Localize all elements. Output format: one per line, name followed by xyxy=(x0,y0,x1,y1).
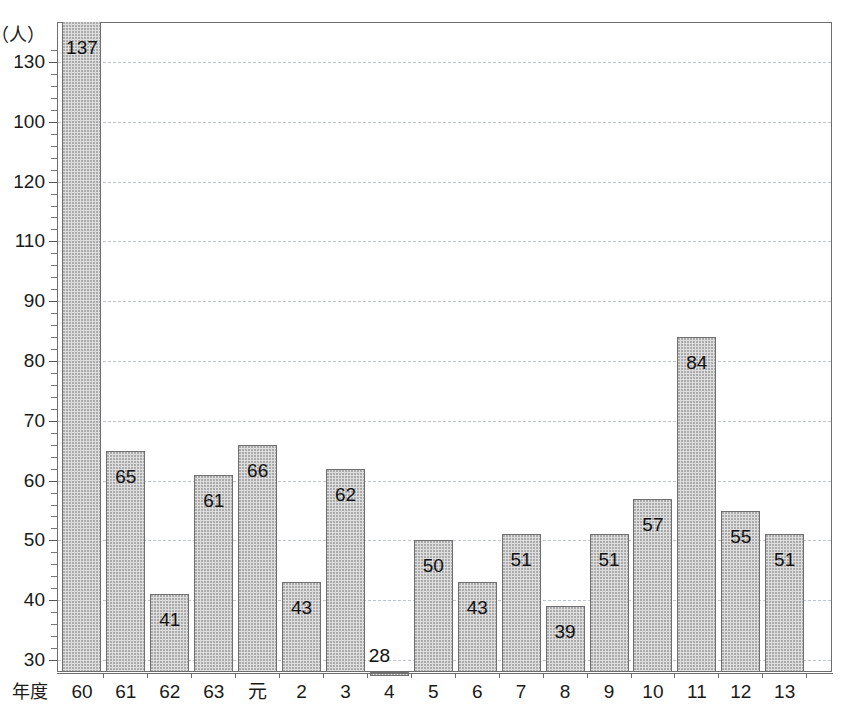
x-tick-label: 62 xyxy=(150,681,189,703)
y-minor-tick-mark xyxy=(51,325,57,326)
bar-value-label: 39 xyxy=(546,622,585,641)
y-tick-label: 30 xyxy=(24,650,45,669)
y-tick-mark xyxy=(49,122,57,123)
y-minor-tick-mark xyxy=(51,217,57,218)
y-tick-label: 50 xyxy=(24,530,45,549)
x-tick-mark xyxy=(323,673,324,678)
y-minor-tick-mark xyxy=(51,86,57,87)
bar[interactable] xyxy=(62,22,101,672)
x-axis-rule xyxy=(57,673,833,674)
y-tick-label: 70 xyxy=(24,411,45,430)
bar-value-label: 51 xyxy=(590,550,629,569)
x-axis-title: 年度 xyxy=(4,681,56,703)
y-tick-label: 40 xyxy=(24,590,45,609)
y-tick-label: 110 xyxy=(15,231,45,250)
x-tick-mark xyxy=(411,673,412,678)
x-tick-label: 10 xyxy=(633,681,672,703)
bar-value-label: 43 xyxy=(458,598,497,617)
x-tick-mark xyxy=(499,673,500,678)
y-tick-mark xyxy=(49,660,57,661)
y-minor-tick-mark xyxy=(51,110,57,111)
y-axis-unit-label: （人） xyxy=(0,26,45,44)
y-minor-tick-mark xyxy=(51,253,57,254)
y-minor-tick-mark xyxy=(51,277,57,278)
y-tick-label: 120 xyxy=(13,172,45,191)
x-tick-label: 8 xyxy=(546,681,585,703)
gridline xyxy=(58,241,831,242)
bar[interactable] xyxy=(677,337,716,672)
x-tick-mark xyxy=(543,673,544,678)
y-minor-tick-mark xyxy=(51,505,57,506)
bar-value-label: 61 xyxy=(194,491,233,510)
bar-value-label: 84 xyxy=(677,353,716,372)
y-minor-tick-mark xyxy=(51,469,57,470)
y-minor-tick-mark xyxy=(51,206,57,207)
bar-value-label: 41 xyxy=(150,610,189,629)
x-tick-label: 3 xyxy=(326,681,365,703)
y-tick-label: 90 xyxy=(24,291,45,310)
x-tick-mark xyxy=(235,673,236,678)
x-tick-mark xyxy=(718,673,719,678)
bar[interactable] xyxy=(282,582,321,672)
x-tick-label: 6 xyxy=(458,681,497,703)
y-minor-tick-mark xyxy=(51,313,57,314)
x-tick-label: 元 xyxy=(238,681,277,703)
gridline xyxy=(58,122,831,123)
y-minor-tick-mark xyxy=(51,289,57,290)
y-tick-mark xyxy=(49,361,57,362)
bar-value-label: 55 xyxy=(721,527,760,546)
y-minor-tick-mark xyxy=(51,229,57,230)
x-tick-label: 7 xyxy=(502,681,541,703)
bar-chart: （人） 13010012011090807060504030 137654161… xyxy=(0,0,850,710)
bar-value-label: 137 xyxy=(62,38,101,57)
x-tick-label: 4 xyxy=(370,681,409,703)
y-minor-tick-mark xyxy=(51,648,57,649)
y-minor-tick-mark xyxy=(51,576,57,577)
y-minor-tick-mark xyxy=(51,493,57,494)
y-minor-tick-mark xyxy=(51,337,57,338)
y-minor-tick-mark xyxy=(51,516,57,517)
bar-value-label: 51 xyxy=(502,550,541,569)
bar-value-label: 65 xyxy=(106,467,145,486)
x-tick-mark xyxy=(147,673,148,678)
x-axis: 年度 60616263元2345678910111213 xyxy=(0,673,850,710)
x-tick-label: 11 xyxy=(677,681,716,703)
y-minor-tick-mark xyxy=(51,528,57,529)
y-minor-tick-mark xyxy=(51,397,57,398)
y-minor-tick-mark xyxy=(51,636,57,637)
bar-value-label: 43 xyxy=(282,598,321,617)
y-minor-tick-mark xyxy=(51,385,57,386)
y-tick-label: 80 xyxy=(24,351,45,370)
bar-value-label: 57 xyxy=(633,515,672,534)
plot-area: 13765416166436228504351395157845551 xyxy=(58,23,831,672)
y-tick-mark xyxy=(49,481,57,482)
x-tick-mark xyxy=(367,673,368,678)
x-tick-mark xyxy=(455,673,456,678)
x-tick-mark xyxy=(674,673,675,678)
y-tick-mark xyxy=(49,182,57,183)
y-minor-tick-mark xyxy=(51,158,57,159)
bar-value-label: 28 xyxy=(350,646,409,665)
x-tick-label: 60 xyxy=(62,681,101,703)
x-tick-label: 5 xyxy=(414,681,453,703)
y-minor-tick-mark xyxy=(51,612,57,613)
y-axis: （人） 13010012011090807060504030 xyxy=(0,0,57,710)
x-tick-mark xyxy=(631,673,632,678)
y-minor-tick-mark xyxy=(51,552,57,553)
y-minor-tick-mark xyxy=(51,98,57,99)
x-tick-mark xyxy=(806,673,807,678)
bar[interactable] xyxy=(150,594,189,672)
y-minor-tick-mark xyxy=(51,409,57,410)
y-minor-tick-mark xyxy=(51,170,57,171)
bar-value-label: 51 xyxy=(765,550,804,569)
y-tick-mark xyxy=(49,540,57,541)
bar[interactable] xyxy=(458,582,497,672)
y-tick-mark xyxy=(49,600,57,601)
y-tick-mark xyxy=(49,241,57,242)
x-tick-label: 13 xyxy=(765,681,804,703)
bar-value-label: 62 xyxy=(326,485,365,504)
y-minor-tick-mark xyxy=(51,433,57,434)
y-minor-tick-mark xyxy=(51,50,57,51)
y-tick-label: 100 xyxy=(13,112,45,131)
y-tick-label: 130 xyxy=(13,52,45,71)
